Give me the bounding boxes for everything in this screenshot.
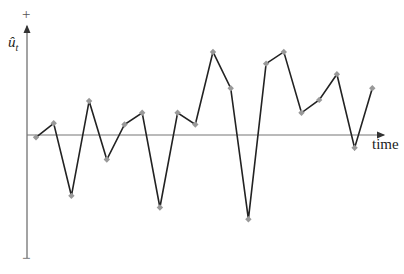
data-point-marker (86, 98, 92, 104)
residual-line-chart (0, 0, 404, 274)
data-point-marker (157, 204, 163, 210)
data-point-marker (104, 156, 110, 162)
data-point-marker (369, 85, 375, 91)
data-point-marker (245, 216, 251, 222)
data-point-marker (210, 49, 216, 55)
x-axis-label: time (372, 136, 399, 153)
positive-sign-label: + (22, 6, 30, 23)
data-point-marker (351, 145, 357, 151)
data-point-marker (228, 85, 234, 91)
negative-sign-label: − (22, 250, 30, 267)
data-point-marker (68, 193, 74, 199)
y-axis-label: ût (8, 34, 18, 53)
